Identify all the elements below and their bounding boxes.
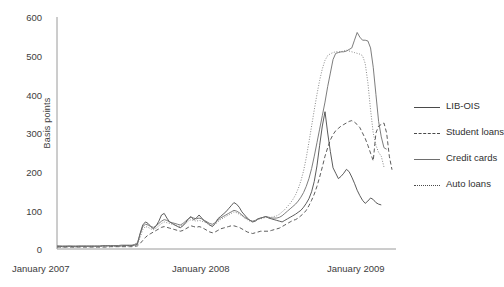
legend-swatch-auto-loans bbox=[414, 185, 440, 186]
series-line-student-loans bbox=[57, 121, 392, 247]
series-line-lib-ois bbox=[57, 112, 381, 247]
legend-swatch-lib-ois bbox=[414, 107, 440, 108]
series-line-credit-cards bbox=[57, 32, 387, 245]
series-layer bbox=[57, 32, 392, 247]
legend-label-lib-ois: LIB-OIS bbox=[446, 100, 480, 111]
legend-swatch-student-loans bbox=[414, 133, 440, 134]
legend-label-student-loans: Student loans bbox=[446, 126, 504, 137]
series-line-auto-loans bbox=[57, 50, 384, 246]
legend-label-credit-cards: Credit cards bbox=[446, 152, 497, 163]
legend-swatch-credit-cards bbox=[414, 159, 440, 160]
legend-label-auto-loans: Auto loans bbox=[446, 178, 491, 189]
